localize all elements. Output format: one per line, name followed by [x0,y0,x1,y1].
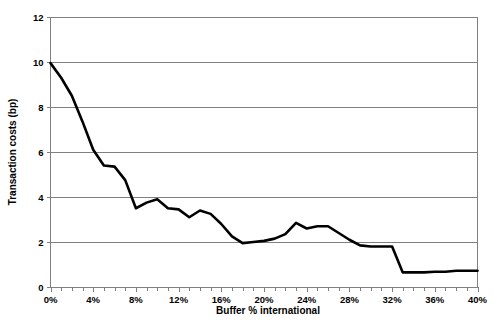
y-tick-label: 6 [38,147,43,158]
y-axis-title: Transaction costs (bp) [7,99,18,206]
x-tick-label: 40% [468,294,488,305]
x-tick-label: 12% [169,294,189,305]
x-tick-label: 36% [425,294,445,305]
chart-container: 024681012 0%4%8%12%16%20%24%28%32%36%40%… [0,0,497,329]
line-chart: 024681012 0%4%8%12%16%20%24%28%32%36%40%… [0,0,497,329]
x-axis-title: Buffer % international [216,305,320,316]
x-tick-label: 0% [44,294,58,305]
x-tick-label: 24% [297,294,317,305]
x-tick-label: 20% [254,294,274,305]
y-tick-label: 2 [38,237,43,248]
y-tick-label: 12 [33,12,44,23]
y-tick-label: 4 [38,192,44,203]
y-tick-label: 8 [38,102,43,113]
y-tick-label: 10 [33,57,44,68]
x-tick-label: 8% [129,294,143,305]
x-tick-label: 16% [212,294,232,305]
chart-background [0,0,497,329]
x-tick-label: 28% [340,294,360,305]
x-tick-label: 32% [383,294,403,305]
y-tick-label: 0 [38,282,43,293]
x-tick-label: 4% [86,294,100,305]
